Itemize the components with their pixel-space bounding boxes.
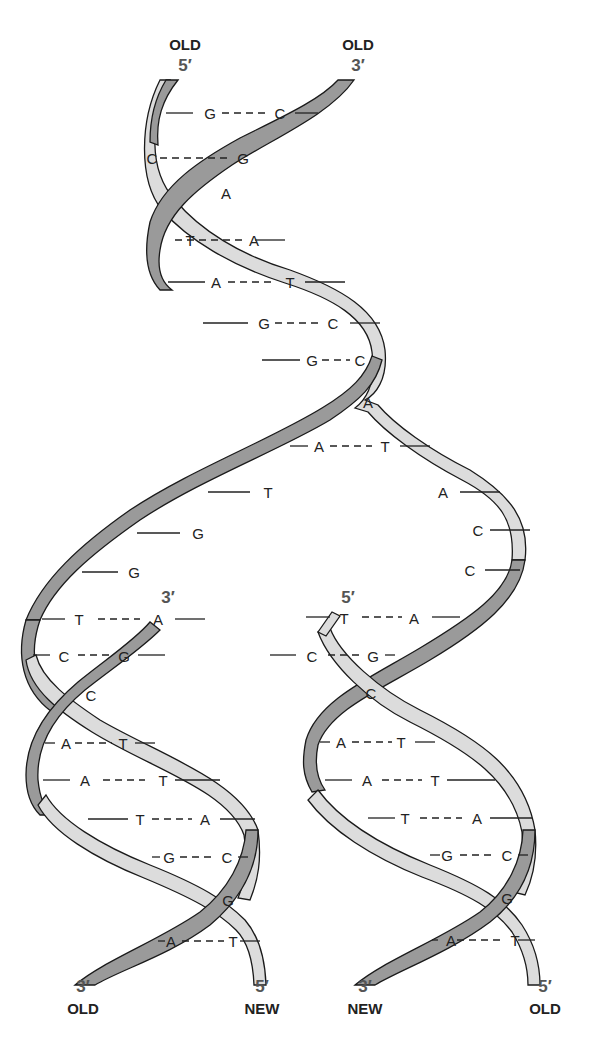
base: C: [59, 649, 70, 664]
base: A: [446, 933, 456, 948]
base: T: [263, 485, 272, 500]
base: T: [74, 612, 83, 627]
base: A: [249, 233, 259, 248]
base: C: [147, 151, 158, 166]
base: A: [61, 736, 71, 751]
base: C: [86, 688, 97, 703]
base: A: [80, 773, 90, 788]
base: A: [200, 812, 210, 827]
base: T: [285, 275, 294, 290]
base: G: [258, 316, 270, 331]
base: C: [465, 563, 476, 578]
base: A: [438, 485, 448, 500]
base: A: [221, 186, 231, 201]
label-bottom-2-word: NEW: [245, 1001, 280, 1016]
base: T: [185, 233, 194, 248]
right-new-strand-tip: [318, 612, 340, 636]
base: T: [339, 611, 348, 626]
base: A: [409, 611, 419, 626]
base: T: [396, 735, 405, 750]
label-top-right-3prime: 3′: [351, 57, 365, 74]
label-mid-left-3prime: 3′: [161, 589, 175, 606]
base: C: [355, 353, 366, 368]
base: G: [204, 106, 216, 121]
base: T: [400, 811, 409, 826]
label-bottom-1-word: OLD: [67, 1001, 99, 1016]
base: C: [275, 106, 286, 121]
base: A: [314, 439, 324, 454]
label-bottom-3-prime: 3′: [358, 978, 372, 995]
base: G: [367, 649, 379, 664]
base: C: [366, 686, 377, 701]
base: G: [128, 565, 140, 580]
base: T: [228, 934, 237, 949]
base: G: [163, 850, 175, 865]
label-bottom-3-word: NEW: [348, 1001, 383, 1016]
base: G: [118, 649, 130, 664]
base: C: [222, 850, 233, 865]
base: G: [306, 353, 318, 368]
label-bottom-2-prime: 5′: [255, 978, 269, 995]
base: T: [135, 812, 144, 827]
base: A: [166, 934, 176, 949]
base: C: [328, 316, 339, 331]
base: C: [502, 848, 513, 863]
base: A: [363, 395, 373, 410]
label-bottom-1-prime: 3′: [76, 978, 90, 995]
base: T: [158, 773, 167, 788]
base: G: [192, 526, 204, 541]
dna-replication-diagram: .dk{fill:#9a9a9a;stroke:#1a1a1a;stroke-w…: [0, 0, 591, 1056]
parent-dark-strand-cross: [26, 356, 382, 620]
base: T: [118, 736, 127, 751]
label-bottom-4-word: OLD: [529, 1001, 561, 1016]
label-top-right-old: OLD: [342, 37, 374, 52]
base: G: [237, 151, 249, 166]
base: C: [473, 523, 484, 538]
base: T: [510, 933, 519, 948]
label-bottom-4-prime: 5′: [538, 978, 552, 995]
label-top-left-old: OLD: [169, 37, 201, 52]
base: A: [153, 612, 163, 627]
base: A: [211, 275, 221, 290]
base: G: [441, 848, 453, 863]
label-mid-right-5prime: 5′: [341, 589, 355, 606]
base: G: [222, 893, 234, 908]
base: A: [362, 773, 372, 788]
base: G: [501, 891, 513, 906]
base: T: [430, 773, 439, 788]
base: A: [472, 811, 482, 826]
base: A: [336, 735, 346, 750]
label-top-left-5prime: 5′: [178, 57, 192, 74]
base: C: [307, 649, 318, 664]
base: T: [380, 439, 389, 454]
